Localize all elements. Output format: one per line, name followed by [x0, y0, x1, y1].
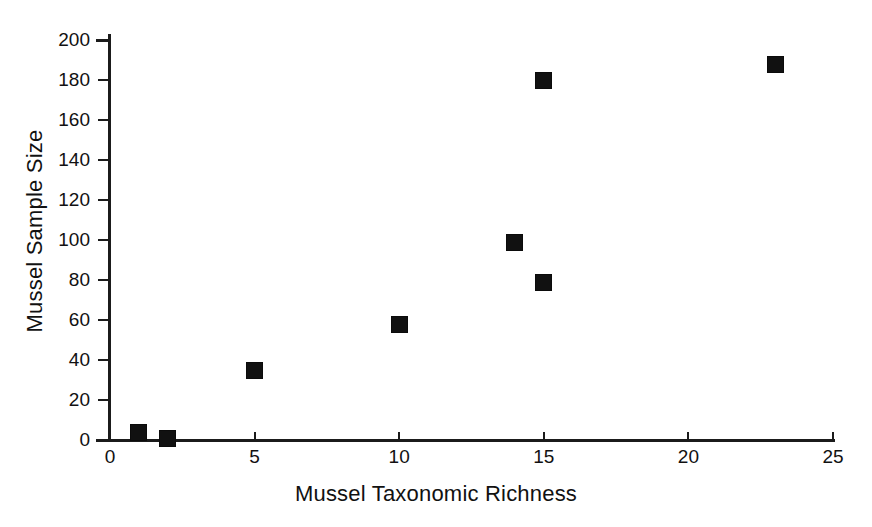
y-tick-mark: [98, 239, 109, 241]
y-tick-mark: [98, 119, 109, 121]
data-point: [535, 274, 552, 291]
data-point: [506, 234, 523, 251]
x-tick-label: 10: [369, 447, 429, 467]
x-tick-label: 0: [80, 447, 140, 467]
y-tick-mark: [98, 199, 109, 201]
x-tick-label: 15: [514, 447, 574, 467]
y-axis-title-container: Mussel Sample Size: [0, 0, 44, 470]
data-point: [535, 72, 552, 89]
data-point: [159, 430, 176, 447]
y-tick-mark: [98, 319, 109, 321]
y-tick-mark: [96, 439, 109, 442]
y-tick-mark: [98, 159, 109, 161]
data-point: [767, 56, 784, 73]
x-axis-title: Mussel Taxonomic Richness: [0, 481, 872, 507]
plot-area: [110, 40, 833, 440]
x-tick-label: 25: [803, 447, 863, 467]
y-tick-mark: [98, 359, 109, 361]
y-tick-mark: [98, 399, 109, 401]
data-point: [246, 362, 263, 379]
scatter-chart: 020406080100120140160180200 0510152025 M…: [0, 0, 872, 527]
y-tick-mark: [96, 39, 109, 42]
x-tick-label: 20: [658, 447, 718, 467]
data-point: [130, 424, 147, 441]
x-tick-label: 5: [225, 447, 285, 467]
y-tick-mark: [98, 279, 109, 281]
y-axis-title: Mussel Sample Size: [22, 31, 48, 431]
data-point: [391, 316, 408, 333]
y-tick-mark: [98, 79, 109, 81]
